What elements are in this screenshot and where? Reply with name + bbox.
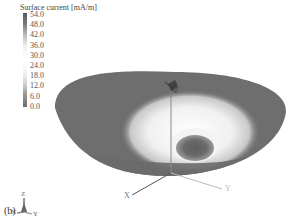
y-axis-line	[171, 173, 222, 189]
x-axis-line	[132, 173, 171, 195]
triad-z-label: Z	[21, 190, 25, 198]
triad-y-label: Y	[33, 210, 38, 218]
x-axis-label: X	[124, 191, 130, 200]
axis-triad-icon	[17, 198, 32, 214]
panel-label: (b)	[4, 205, 16, 216]
dish-surface-plot	[0, 0, 295, 223]
y-axis-label: Y	[225, 184, 231, 193]
z-axis-label: Z	[174, 86, 179, 95]
